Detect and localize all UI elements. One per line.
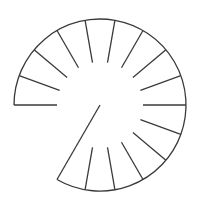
tread-line [122, 31, 144, 68]
tread-line [133, 133, 166, 161]
tread-line [140, 76, 180, 91]
tread-line [19, 76, 59, 91]
tread-line [85, 20, 92, 62]
tread-line [108, 20, 115, 62]
tread-line [85, 147, 92, 189]
tread-line [108, 147, 115, 189]
spiral-staircase-diagram [0, 0, 199, 209]
tread-line [140, 120, 180, 135]
tread-line [122, 142, 144, 179]
end-landing-line [57, 105, 100, 180]
tread-line [57, 31, 79, 68]
tread-line [34, 50, 67, 78]
tread-line [133, 50, 166, 78]
